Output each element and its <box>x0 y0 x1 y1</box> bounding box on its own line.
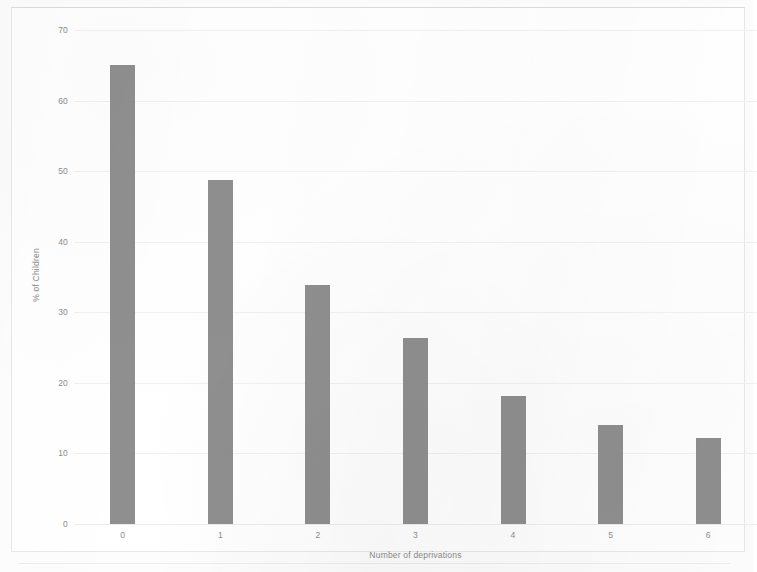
bar[interactable] <box>208 180 233 524</box>
x-axis-tick-label: 2 <box>298 530 338 540</box>
bar[interactable] <box>696 438 721 524</box>
bar[interactable] <box>598 425 623 525</box>
y-axis-tick-label: 10 <box>24 448 68 458</box>
chart-frame: 010203040506070 % of Children 0123456 Nu… <box>11 7 745 552</box>
x-axis-tick-label: 4 <box>493 530 533 540</box>
x-axis-tick-labels: 0123456 <box>74 530 757 546</box>
bar[interactable] <box>110 65 135 524</box>
bars-layer <box>74 30 757 524</box>
y-axis-tick-label: 70 <box>24 25 68 35</box>
y-axis-tick-label: 0 <box>24 519 68 529</box>
bar[interactable] <box>305 285 330 524</box>
y-axis-tick-label: 50 <box>24 166 68 176</box>
x-axis-tick-label: 3 <box>396 530 436 540</box>
scan-edge-line <box>18 563 730 564</box>
x-axis-tick-label: 5 <box>591 530 631 540</box>
x-axis-tick-label: 0 <box>103 530 143 540</box>
x-axis-tick-label: 6 <box>688 530 728 540</box>
x-axis-title: Number of deprivations <box>74 550 757 560</box>
plot-area <box>74 30 757 524</box>
y-axis-tick-label: 20 <box>24 378 68 388</box>
y-axis-tick-label: 60 <box>24 96 68 106</box>
gridline <box>74 524 757 525</box>
x-axis-tick-label: 1 <box>200 530 240 540</box>
bar[interactable] <box>403 338 428 524</box>
bar[interactable] <box>501 396 526 524</box>
y-axis-title: % of Children <box>31 225 41 325</box>
